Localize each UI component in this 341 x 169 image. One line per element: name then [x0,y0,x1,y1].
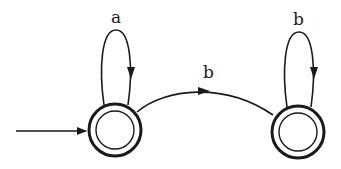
transition-q0-q0 [102,30,131,105]
label-b-edge: b [203,62,214,82]
state-q1[interactable] [272,106,324,158]
transition-q0-q1 [137,92,273,115]
automaton-diagram: a b b [0,0,341,169]
state-q0[interactable] [89,104,141,156]
arrowhead-icon [310,67,318,79]
transition-q1-q1 [285,32,314,107]
label-a: a [111,7,121,27]
arrowhead-icon [198,87,210,95]
arrowhead-icon [127,67,135,79]
label-b-loop: b [293,9,304,29]
